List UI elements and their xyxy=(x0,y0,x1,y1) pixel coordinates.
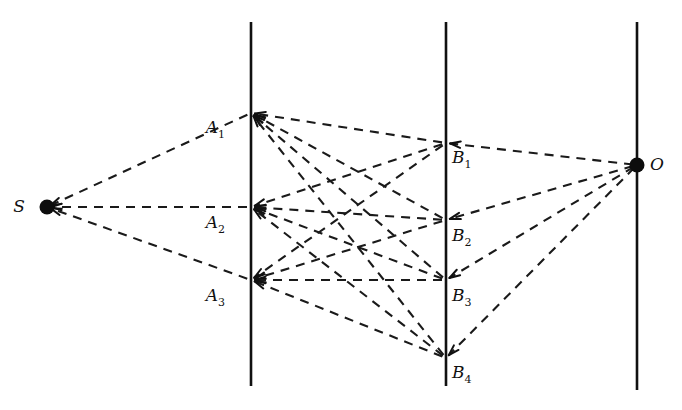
node-label-a2: A2 xyxy=(204,212,225,236)
ray-edge-B2-to-A2 xyxy=(255,207,442,219)
ray-edge-B2-to-A3 xyxy=(255,221,442,279)
diagram-canvas: SA1A2A3B1B2B3B4O xyxy=(0,0,682,410)
node-label-s: S xyxy=(13,196,25,216)
node-label-subscript-b2: 2 xyxy=(465,236,472,249)
node-label-a1: A1 xyxy=(204,117,225,141)
node-label-a3: A3 xyxy=(204,285,225,309)
node-label-b1: B1 xyxy=(451,147,472,171)
ray-edge-B3-to-A2 xyxy=(255,208,443,278)
plane-lines-group xyxy=(251,22,637,390)
node-label-b2: B2 xyxy=(451,225,472,249)
node-label-subscript-a3: 3 xyxy=(218,296,225,309)
node-label-subscript-a2: 2 xyxy=(218,223,225,236)
node-label-subscript-b3: 3 xyxy=(465,296,472,309)
node-label-b3: B3 xyxy=(451,285,472,309)
ray-edge-B4-to-A3 xyxy=(255,281,443,356)
node-label-b4: B4 xyxy=(451,362,472,386)
ray-edge-O-to-B2 xyxy=(450,166,633,219)
node-label-subscript-b1: 1 xyxy=(465,158,472,171)
ray-edge-B1-to-A1 xyxy=(255,114,442,143)
node-dot-s xyxy=(40,200,55,215)
node-label-subscript-a1: 1 xyxy=(218,128,225,141)
node-dot-o xyxy=(630,158,645,173)
node-label-o: O xyxy=(650,154,664,174)
ray-edge-B4-to-A2 xyxy=(254,209,443,355)
diagram-svg: SA1A2A3B1B2B3B4O xyxy=(0,0,682,410)
ray-edge-B1-to-A3 xyxy=(254,145,442,277)
ray-edge-O-to-B1 xyxy=(450,143,633,164)
ray-edges-group xyxy=(51,112,635,357)
node-label-subscript-b4: 4 xyxy=(465,373,472,386)
